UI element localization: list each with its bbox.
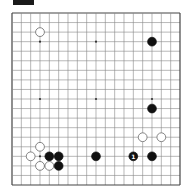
white-stone bbox=[36, 28, 45, 37]
white-stone bbox=[26, 152, 35, 161]
black-stone bbox=[148, 152, 157, 161]
move-number-label: 1 bbox=[131, 153, 135, 160]
black-stone bbox=[148, 37, 157, 46]
star-point bbox=[39, 155, 41, 157]
go-board: 1 bbox=[0, 0, 185, 191]
star-point bbox=[39, 98, 41, 100]
black-stone bbox=[148, 104, 157, 113]
black-stone: 1 bbox=[129, 152, 138, 161]
star-point bbox=[95, 98, 97, 100]
star-point bbox=[151, 98, 153, 100]
white-stone bbox=[36, 161, 45, 170]
white-stone bbox=[45, 161, 54, 170]
black-stone bbox=[54, 161, 63, 170]
black-stone bbox=[54, 152, 63, 161]
star-point bbox=[95, 41, 97, 43]
star-point bbox=[39, 41, 41, 43]
black-stone bbox=[92, 152, 101, 161]
black-stone bbox=[45, 152, 54, 161]
white-stone bbox=[138, 133, 147, 142]
white-stone bbox=[36, 142, 45, 151]
white-stone bbox=[157, 133, 166, 142]
